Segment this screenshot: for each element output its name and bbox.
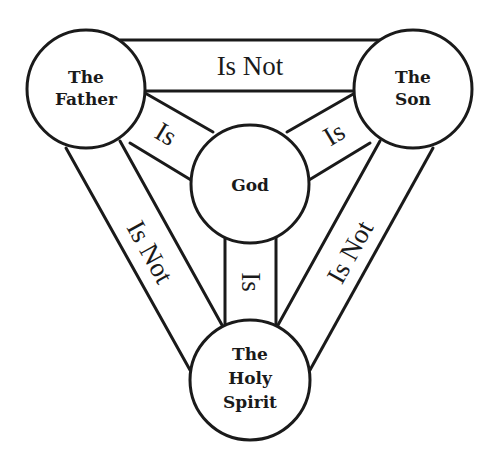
label-father-son: Is Not <box>217 51 284 81</box>
node-spirit-line-2: Holy <box>228 368 273 388</box>
node-god: God <box>191 125 309 243</box>
node-god-label: God <box>231 175 269 195</box>
label-spirit-god: Is <box>236 272 266 292</box>
trinity-diagram: Is Not Is Not Is Not Is Is Is The Father… <box>0 0 499 461</box>
node-father: The Father <box>27 30 145 148</box>
node-father-line-1: The <box>68 67 104 87</box>
node-spirit-line-1: The <box>232 344 268 364</box>
label-son-spirit: Is Not <box>321 215 380 288</box>
label-father-god: Is <box>150 116 182 152</box>
node-spirit-line-3: Spirit <box>223 392 277 412</box>
node-son: The Son <box>354 30 472 148</box>
label-father-spirit: Is Not <box>121 216 180 289</box>
label-son-god: Is <box>318 116 350 152</box>
node-father-line-2: Father <box>55 89 118 109</box>
node-spirit: The Holy Spirit <box>190 320 310 440</box>
node-son-line-1: The <box>395 67 431 87</box>
node-son-line-2: Son <box>395 89 431 109</box>
